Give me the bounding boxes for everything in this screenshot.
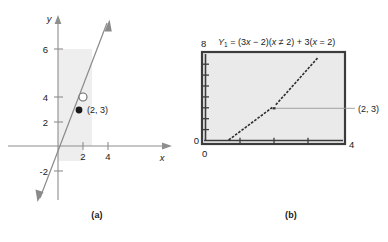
x-tick-label-4: 4 xyxy=(105,151,110,162)
caption-a: (a) xyxy=(0,210,194,220)
x-axis-arrow xyxy=(162,143,172,150)
formula-part2: − 2)( xyxy=(250,37,271,47)
formula-part1: (3 xyxy=(238,37,246,47)
formula-part3: ≠ 2) + 3( xyxy=(276,37,312,47)
filled-point xyxy=(76,107,83,114)
panel-a-graph: 2 4 6 4 2 -2 x y (2, 3) xyxy=(0,0,194,205)
shaded-region-lower xyxy=(58,49,83,161)
y-tick-label-neg2: -2 xyxy=(40,166,48,177)
y-tick-label-6: 6 xyxy=(43,44,48,55)
caption-b: (b) xyxy=(194,210,388,220)
formula-expression: Y1 = (3x − 2)(x ≠ 2) + 3(x = 2) xyxy=(218,37,335,48)
calc-ymin-label: 0 xyxy=(194,135,199,146)
calc-ymax-label: 8 xyxy=(201,38,206,49)
y-axis-arrow xyxy=(55,15,62,24)
x-tick-label-2: 2 xyxy=(80,151,85,162)
formula-part4: = 2) xyxy=(317,37,335,47)
calc-xmax-label: 4 xyxy=(349,139,354,150)
panel-a: 2 4 6 4 2 -2 x y (2, 3) (a) xyxy=(0,0,194,242)
y-axis-label: y xyxy=(46,13,53,24)
point-label-a: (2, 3) xyxy=(87,105,108,115)
point-label-b: (2, 3) xyxy=(358,104,379,114)
calculator-screen-background xyxy=(202,52,345,144)
y-tick-label-2: 2 xyxy=(43,117,48,128)
calc-xmin-label: 0 xyxy=(202,148,207,159)
open-circle-point xyxy=(79,93,87,101)
y-tick-label-4: 4 xyxy=(43,92,48,103)
calc-isolated-point xyxy=(273,107,276,109)
x-axis-label: x xyxy=(159,152,166,163)
panel-b-graph: 8 0 0 4 (2, 3) Y1 = (3x − 2)(x ≠ 2) + 3(… xyxy=(194,0,388,205)
figure-container: 2 4 6 4 2 -2 x y (2, 3) (a) xyxy=(0,0,388,242)
panel-b: 8 0 0 4 (2, 3) Y1 = (3x − 2)(x ≠ 2) + 3(… xyxy=(194,0,388,242)
